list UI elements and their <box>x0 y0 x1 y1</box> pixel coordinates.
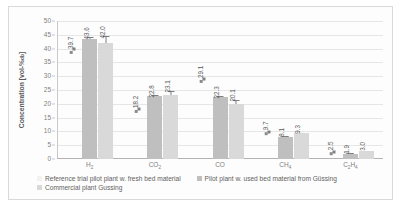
y-tick-mark <box>52 159 55 160</box>
x-axis-label: CO2 <box>122 161 187 173</box>
plot-area: 39.743.642.018.222.823.129.122.320.19.78… <box>57 21 383 159</box>
chart-legend: Reference trial pilot plant w. fresh bed… <box>19 175 384 191</box>
bar[interactable] <box>82 39 97 159</box>
legend-swatch-icon <box>37 185 42 190</box>
y-tick-label: 45 <box>44 32 51 39</box>
legend-row-2: Commercial plant Gussing <box>19 182 384 191</box>
bar[interactable] <box>343 154 358 159</box>
y-tick-mark <box>52 21 55 22</box>
marker-dot-icon <box>134 110 137 113</box>
bar[interactable] <box>278 137 293 159</box>
bar-group: 9.78.19.3 <box>253 21 318 159</box>
x-axis-label: CO <box>187 161 252 173</box>
y-tick-mark <box>52 90 55 91</box>
bar[interactable] <box>294 133 309 159</box>
bar-groups: 39.743.642.018.222.823.129.122.320.19.78… <box>57 21 383 159</box>
legend-swatch-icon <box>197 176 202 181</box>
bar-slot: 3.0 <box>359 21 374 159</box>
bar-value-label: 9.3 <box>295 125 301 134</box>
bar-value-label: 1.9 <box>344 145 350 154</box>
y-axis-ticks: 05101520253035404550 <box>29 21 55 159</box>
x-axis-labels: H2CO2COCH4C2H4 <box>57 161 383 173</box>
y-tick-label: 30 <box>44 73 51 80</box>
bar-value-label: 39.7 <box>67 37 73 54</box>
y-tick-label: 0 <box>47 156 51 163</box>
y-tick-mark <box>52 103 55 104</box>
bar-value-label: 22.8 <box>149 85 155 97</box>
legend-item-reference-trial[interactable]: Reference trial pilot plant w. fresh bed… <box>37 175 181 182</box>
y-axis-title-text: Concentration [vol-% <box>18 60 25 128</box>
bar-value-label: 23.1 <box>165 80 171 92</box>
marker-dot-icon <box>330 152 333 155</box>
y-tick-label: 10 <box>44 128 51 135</box>
bar-slot: 39.7 <box>66 21 81 159</box>
bar-slot: 22.3 <box>213 21 228 159</box>
bar-slot: 22.8 <box>147 21 162 159</box>
bar-value-label: 22.3 <box>214 86 220 98</box>
bar-group: 18.222.823.1 <box>122 21 187 159</box>
bar-value-label: 42.0 <box>99 26 105 38</box>
y-tick-label: 5 <box>47 142 51 149</box>
bar-value-label: 29.1 <box>198 66 204 83</box>
legend-label: Pilot plant w. used bed material from Gü… <box>205 175 337 182</box>
bar[interactable] <box>359 151 374 159</box>
y-tick-label: 15 <box>44 114 51 121</box>
bar-slot: 8.1 <box>278 21 293 159</box>
y-tick-mark <box>52 131 55 132</box>
chart-container: Concentration [vol-%db] 0510152025303540… <box>8 6 393 200</box>
y-tick-label: 40 <box>44 45 51 52</box>
bar-slot: 20.1 <box>229 21 244 159</box>
bar-slot: 42.0 <box>98 21 113 159</box>
bar-value-label: 9.7 <box>263 121 269 135</box>
bar-value-label: 2.5 <box>328 141 334 155</box>
bar[interactable] <box>229 104 244 159</box>
bar-value-label: 43.6 <box>83 27 89 39</box>
bar[interactable] <box>163 95 178 159</box>
y-tick-mark <box>52 145 55 146</box>
y-tick-mark <box>52 76 55 77</box>
bar-group: 29.122.320.1 <box>187 21 252 159</box>
legend-item-pilot-plant-used[interactable]: Pilot plant w. used bed material from Gü… <box>197 175 337 182</box>
bar-slot: 18.2 <box>131 21 146 159</box>
y-tick-label: 25 <box>44 87 51 94</box>
legend-label: Commercial plant Gussing <box>45 184 122 191</box>
y-tick-label: 35 <box>44 59 51 66</box>
bar[interactable] <box>147 96 162 159</box>
bar-value-label: 18.2 <box>133 96 139 113</box>
bar-group: 39.743.642.0 <box>57 21 122 159</box>
x-axis-label: H2 <box>57 161 122 173</box>
legend-label: Reference trial pilot plant w. fresh bed… <box>45 175 181 182</box>
bar[interactable] <box>98 43 113 159</box>
legend-item-commercial-plant[interactable]: Commercial plant Gussing <box>37 184 122 191</box>
bar-slot: 29.1 <box>197 21 212 159</box>
y-tick-label: 20 <box>44 101 51 108</box>
bar-slot: 2.5 <box>327 21 342 159</box>
bar-value-label: 20.1 <box>230 90 236 102</box>
bar-slot: 9.7 <box>262 21 277 159</box>
y-tick-mark <box>52 117 55 118</box>
bar-value-label: 8.1 <box>279 127 285 136</box>
y-tick-mark <box>52 62 55 63</box>
y-axis-title: Concentration [vol-%db] <box>15 21 27 159</box>
bar-slot: 9.3 <box>294 21 309 159</box>
bar-slot: 23.1 <box>163 21 178 159</box>
y-tick-label: 50 <box>44 18 51 25</box>
bar-value-label: 3.0 <box>360 142 366 151</box>
y-tick-mark <box>52 48 55 49</box>
x-axis-label: C2H4 <box>318 161 383 173</box>
bar[interactable] <box>213 97 228 159</box>
marker-dot-icon <box>199 80 202 83</box>
y-axis-title-subscript: db <box>20 54 25 60</box>
bar-slot: 1.9 <box>343 21 358 159</box>
legend-row-1: Reference trial pilot plant w. fresh bed… <box>19 175 384 182</box>
y-tick-mark <box>52 34 55 35</box>
x-axis-label: CH4 <box>253 161 318 173</box>
marker-dot-icon <box>264 132 267 135</box>
marker-dot-icon <box>69 51 72 54</box>
legend-swatch-icon <box>37 176 42 181</box>
bar-group: 2.51.93.0 <box>318 21 383 159</box>
bar-slot: 43.6 <box>82 21 97 159</box>
